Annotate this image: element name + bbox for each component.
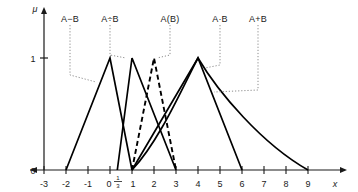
x-axis-arrow-right-icon <box>340 167 347 173</box>
axes-group <box>30 7 347 173</box>
x-tick-label: -2 <box>62 179 70 189</box>
fuzzy-arithmetic-figure: μ x 0 1 -3 -2 -1 0 1 2 3 4 5 6 7 8 9 1 3… <box>0 0 358 192</box>
label-a-of-b: A(B) <box>161 14 180 24</box>
callout-leaders <box>70 25 258 92</box>
leader-a-div-b <box>110 25 126 58</box>
y-axis-label: μ <box>32 4 38 14</box>
x-tick-label: 6 <box>239 179 244 189</box>
y-axis-arrow-icon <box>41 7 47 14</box>
leader-a-of-b <box>157 25 170 58</box>
label-a-times-b: A·B <box>212 14 228 24</box>
leader-a-minus-b <box>70 25 96 82</box>
x-tick-label: 2 <box>151 179 156 189</box>
x-tick-label: 3 <box>173 179 178 189</box>
x-tick-label: 5 <box>217 179 222 189</box>
y-tick-label-1: 1 <box>30 54 35 64</box>
curve-a-minus-b <box>66 58 132 170</box>
x-tick-label: 8 <box>283 179 288 189</box>
curve-a-times-b <box>132 58 242 170</box>
plot-canvas: μ x 0 1 -3 -2 -1 0 1 2 3 4 5 6 7 8 9 1 3… <box>0 0 358 192</box>
x-tick-label: -1 <box>84 179 92 189</box>
leader-a-times-b <box>205 25 220 68</box>
label-a-plus-b: A+B <box>249 14 267 24</box>
x-tick-label: 1 <box>130 179 135 189</box>
x-tick-label-one-third: 1 3 <box>114 175 122 189</box>
fraction-numerator: 1 <box>116 175 120 181</box>
x-tick-label: 7 <box>261 179 266 189</box>
x-tick-label: -3 <box>40 179 48 189</box>
label-a-div-b: A÷B <box>101 14 119 24</box>
fraction-denominator: 3 <box>116 183 120 189</box>
curve-a-div-b <box>117 58 176 170</box>
x-tick-label: 9 <box>305 179 310 189</box>
label-a-minus-b: A−B <box>61 14 79 24</box>
x-tick-label: 0 <box>106 179 111 189</box>
x-tick-label: 4 <box>195 179 200 189</box>
x-axis-label: x <box>332 179 338 189</box>
y-tick-label-0: 0 <box>30 166 35 176</box>
leader-a-plus-b <box>214 25 258 92</box>
